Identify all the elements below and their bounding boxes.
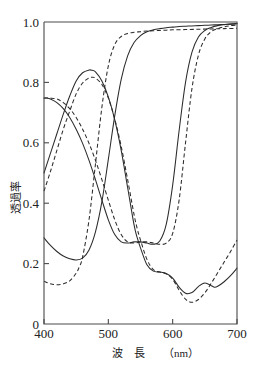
y-tick-label: 0.4 [23,196,40,211]
spectrum-curve-red-solid [44,24,237,245]
x-axis-title: 波 長 [112,347,145,360]
y-tick-label: 0 [33,317,40,332]
y-tick-label: 0.2 [23,256,39,271]
x-tick-label: 500 [99,326,119,341]
y-axis-title: 透過率 [9,181,23,214]
spectrum-curve-red-dashed [44,25,237,244]
spectrum-curve-blue-dashed [44,77,237,302]
x-tick-label: 600 [163,326,183,341]
spectrum-curve-green-solid [44,24,237,260]
spectrum-curve-green-dashed [44,28,237,284]
axis-frame [44,22,237,324]
y-tick-label: 0.6 [23,135,40,150]
transmittance-spectrum-chart: 40050060070000.20.40.60.81.0 波 長 （nm） 透過… [0,0,266,373]
tick-labels-layer: 40050060070000.20.40.60.81.0 [23,15,247,342]
ticks-layer [44,82,237,324]
y-tick-label: 0.8 [23,75,39,90]
y-tick-label: 1.0 [23,15,39,30]
curves-layer [44,24,237,303]
axes-layer [44,22,237,324]
chart-figure: 40050060070000.20.40.60.81.0 波 長 （nm） 透過… [0,0,266,373]
x-axis-unit-label: （nm） [163,347,199,359]
x-tick-label: 700 [227,326,247,341]
